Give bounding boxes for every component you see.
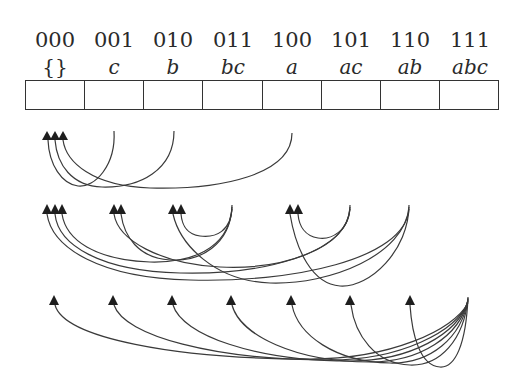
- arc-101-to-000: [55, 209, 350, 273]
- arc-111-to-001: [114, 302, 468, 360]
- arrowhead-icon: [167, 295, 177, 305]
- arrowhead-icon: [286, 295, 296, 305]
- arc-011-to-001: [121, 207, 232, 260]
- row-1-arcs: [42, 131, 292, 188]
- row-3-arcs: [49, 295, 468, 367]
- arc-110-to-100: [290, 205, 409, 286]
- arc-101-to-100: [298, 205, 350, 238]
- arrowhead-icon: [58, 131, 68, 140]
- arc-diagram: [0, 0, 522, 387]
- arrowhead-icon: [108, 295, 118, 305]
- arc-011-to-010: [181, 205, 232, 236]
- arrowhead-icon: [49, 295, 59, 305]
- arrowhead-icon: [50, 131, 60, 140]
- arrowhead-icon: [176, 204, 186, 214]
- arc-110-to-000: [47, 209, 409, 280]
- arrowhead-icon: [42, 204, 52, 214]
- arrowhead-icon: [293, 204, 303, 214]
- arrowhead-icon: [42, 131, 52, 140]
- arrowhead-icon: [345, 295, 355, 305]
- arrowhead-icon: [405, 295, 415, 305]
- arrowhead-icon: [116, 204, 126, 214]
- arrowhead-icon: [168, 204, 178, 214]
- arrowhead-icon: [226, 295, 236, 305]
- row-2-arcs: [42, 204, 409, 286]
- arrowhead-icon: [57, 204, 67, 214]
- arc-100-to-000: [63, 133, 292, 188]
- arrowhead-icon: [285, 204, 295, 214]
